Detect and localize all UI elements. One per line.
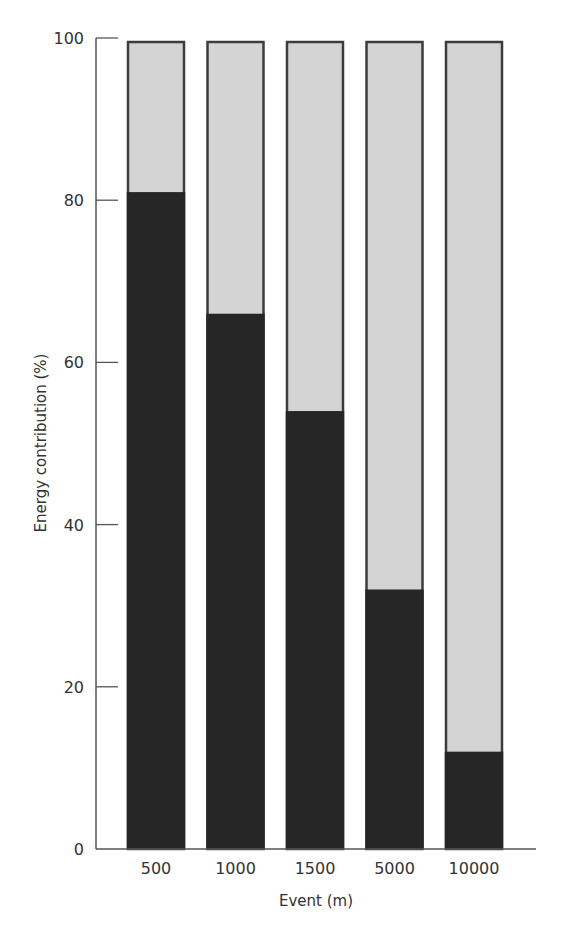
y-axis-title: Energy contribution (%): [32, 354, 50, 533]
bars-group: [127, 42, 503, 849]
x-tick-label: 5000: [374, 859, 415, 878]
stacked-bar-chart: 020406080100 50010001500500010000 Event …: [0, 0, 563, 939]
x-tick-label: 10000: [449, 859, 500, 878]
x-tick-label: 1000: [215, 859, 256, 878]
bar-1000: [206, 42, 264, 849]
y-tick-label: 60: [64, 353, 84, 372]
bar-10000: [445, 42, 503, 849]
bar-dark-segment: [365, 589, 423, 849]
bar-1500: [286, 42, 344, 849]
y-tick-label: 20: [64, 678, 84, 697]
y-ticks: 020406080100: [53, 29, 118, 859]
y-tick-label: 0: [74, 840, 84, 859]
bar-light-segment: [446, 42, 502, 849]
y-tick-label: 100: [53, 29, 84, 48]
y-tick-label: 40: [64, 516, 84, 535]
x-tick-labels: 50010001500500010000: [141, 859, 500, 878]
bar-dark-segment: [445, 752, 503, 849]
bar-5000: [365, 42, 423, 849]
bar-dark-segment: [127, 192, 185, 849]
x-tick-label: 1500: [295, 859, 336, 878]
bar-dark-segment: [286, 411, 344, 849]
x-axis-title: Event (m): [279, 892, 353, 910]
bar-dark-segment: [206, 314, 264, 849]
y-tick-label: 80: [64, 191, 84, 210]
x-tick-label: 500: [141, 859, 172, 878]
bar-500: [127, 42, 185, 849]
